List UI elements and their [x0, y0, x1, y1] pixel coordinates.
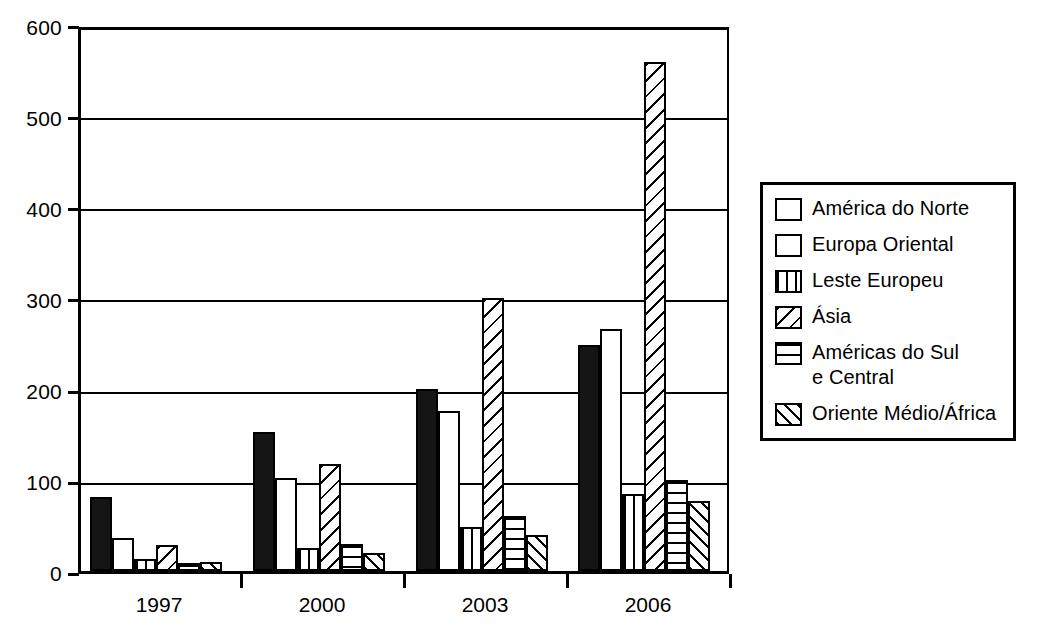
- x-tick-label-2000: 2000: [299, 594, 346, 616]
- y-tick-label-200: 200: [26, 381, 62, 402]
- bar-group-2006: [578, 30, 710, 571]
- bar[interactable]: [504, 516, 526, 571]
- plot-area: [78, 27, 729, 574]
- chart-legend: América do NorteEuropa OrientalLeste Eur…: [760, 182, 1016, 441]
- legend-item[interactable]: Europa Oriental: [775, 232, 1003, 257]
- legend-item-label: Américas do Sul e Central: [812, 340, 959, 390]
- legend-item[interactable]: Américas do Sul e Central: [775, 340, 1003, 390]
- bar[interactable]: [363, 553, 385, 571]
- y-tick-mark-100: [68, 482, 79, 485]
- bar[interactable]: [253, 432, 275, 571]
- empty-white-swatch: [775, 234, 802, 257]
- x-tick-label-1997: 1997: [136, 594, 183, 616]
- horizontal-stripe-swatch: [775, 342, 802, 365]
- x-tick-mark-1: [240, 574, 243, 588]
- solid-black-swatch: [775, 198, 802, 221]
- legend-item-label: Europa Oriental: [812, 232, 954, 257]
- diagonal-wide-swatch: [775, 306, 802, 329]
- y-tick-mark-500: [68, 117, 79, 120]
- x-tick-label-2006: 2006: [625, 594, 672, 616]
- bar[interactable]: [578, 345, 600, 571]
- bar[interactable]: [112, 538, 134, 571]
- bar[interactable]: [460, 527, 482, 571]
- bar[interactable]: [178, 563, 200, 571]
- x-tick-mark-3: [566, 574, 569, 588]
- bar[interactable]: [666, 480, 688, 571]
- legend-item-label: Oriente Médio/África: [812, 401, 996, 426]
- x-tick-label-2003: 2003: [462, 594, 509, 616]
- y-tick-mark-200: [68, 391, 79, 394]
- bar-group-2000: [253, 30, 385, 571]
- bar-group-2003: [416, 30, 548, 571]
- legend-item-label: Leste Europeu: [812, 268, 943, 293]
- y-tick-mark-600: [68, 26, 79, 29]
- y-tick-mark-300: [68, 299, 79, 302]
- legend-item[interactable]: América do Norte: [775, 196, 1003, 221]
- y-tick-mark-0: [68, 573, 79, 576]
- x-tick-mark-4: [729, 574, 732, 588]
- y-tick-label-400: 400: [26, 199, 62, 220]
- bar[interactable]: [200, 562, 222, 571]
- vertical-stripe-swatch: [775, 270, 802, 293]
- bars-layer: [81, 30, 727, 571]
- legend-item-label: América do Norte: [812, 196, 969, 221]
- diagonal-dense-swatch: [775, 403, 802, 426]
- legend-item[interactable]: Ásia: [775, 304, 1003, 329]
- y-tick-label-600: 600: [26, 17, 62, 38]
- bar[interactable]: [297, 548, 319, 571]
- y-tick-mark-400: [68, 208, 79, 211]
- bar[interactable]: [438, 411, 460, 571]
- bar[interactable]: [319, 464, 341, 571]
- y-tick-label-100: 100: [26, 472, 62, 493]
- bar[interactable]: [90, 497, 112, 571]
- y-tick-label-300: 300: [26, 290, 62, 311]
- bar[interactable]: [644, 62, 666, 571]
- bar[interactable]: [482, 298, 504, 572]
- bar[interactable]: [134, 559, 156, 571]
- bar-group-1997: [90, 30, 222, 571]
- bar[interactable]: [275, 478, 297, 571]
- legend-item[interactable]: Oriente Médio/África: [775, 401, 1003, 426]
- bar-chart-figure: 600 500 400 300 200 100 0 1997 2000 2003…: [0, 0, 1037, 629]
- bar[interactable]: [156, 545, 178, 571]
- legend-item-label: Ásia: [812, 304, 851, 329]
- bar[interactable]: [416, 389, 438, 571]
- bar[interactable]: [526, 535, 548, 571]
- y-tick-label-500: 500: [26, 108, 62, 129]
- x-tick-mark-2: [403, 574, 406, 588]
- bar[interactable]: [341, 544, 363, 571]
- bar[interactable]: [688, 501, 710, 571]
- y-tick-label-0: 0: [50, 563, 62, 584]
- bar[interactable]: [600, 329, 622, 572]
- bar[interactable]: [622, 494, 644, 571]
- y-axis-labels: 600 500 400 300 200 100 0: [0, 0, 62, 629]
- legend-item[interactable]: Leste Europeu: [775, 268, 1003, 293]
